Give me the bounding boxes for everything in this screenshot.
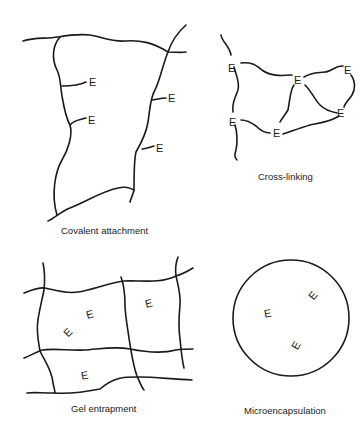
cross-linking-panel: E E E E E E: [221, 35, 355, 160]
svg-text:E: E: [85, 307, 95, 320]
svg-text:E: E: [61, 325, 75, 339]
svg-text:E: E: [273, 127, 280, 139]
covalent-attachment-panel: E E E E: [23, 25, 186, 221]
svg-text:E: E: [88, 114, 95, 126]
svg-text:E: E: [229, 116, 236, 128]
svg-text:E: E: [344, 64, 351, 76]
svg-text:E: E: [337, 107, 344, 119]
svg-text:E: E: [144, 296, 154, 309]
microcapsule-membrane: [233, 260, 349, 376]
svg-text:E: E: [294, 74, 301, 86]
svg-text:E: E: [89, 76, 96, 88]
svg-text:E: E: [228, 62, 235, 74]
caption-cross-linking: Cross-linking: [258, 171, 313, 182]
gel-entrapment-panel: E E E E: [24, 257, 193, 393]
svg-text:E: E: [168, 92, 175, 104]
microencapsulation-panel: E E E: [233, 260, 349, 376]
enzyme-immobilization-diagram: E E E E E E E E E E E E E E E: [0, 0, 361, 427]
caption-covalent-attachment: Covalent attachment: [61, 225, 148, 236]
svg-text:E: E: [80, 369, 89, 382]
svg-text:E: E: [306, 289, 320, 302]
svg-text:E: E: [289, 339, 303, 351]
svg-text:E: E: [263, 307, 272, 320]
caption-microencapsulation: Microencapsulation: [244, 405, 326, 416]
svg-text:E: E: [156, 142, 163, 154]
caption-gel-entrapment: Gel entrapment: [71, 403, 136, 414]
